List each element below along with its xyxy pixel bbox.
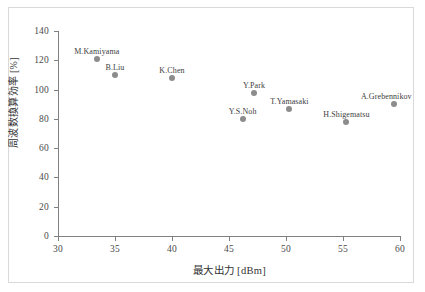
y-tick-mark bbox=[54, 31, 58, 32]
x-tick-mark bbox=[229, 237, 230, 241]
data-point-label: H.Shigematsu bbox=[323, 110, 369, 119]
y-tick-mark bbox=[54, 177, 58, 178]
x-tick-label: 30 bbox=[43, 244, 73, 254]
x-tick-mark bbox=[58, 237, 59, 241]
data-point-label: K.Chen bbox=[159, 66, 184, 75]
x-tick-label: 55 bbox=[328, 244, 358, 254]
x-tick-label: 45 bbox=[214, 244, 244, 254]
x-tick-mark bbox=[343, 237, 344, 241]
data-point-label: Y.Park bbox=[243, 81, 265, 90]
x-tick-label: 35 bbox=[100, 244, 130, 254]
y-axis-line bbox=[58, 31, 59, 237]
data-point bbox=[112, 72, 118, 78]
plot-area bbox=[58, 31, 400, 236]
y-tick-mark bbox=[54, 60, 58, 61]
data-point bbox=[251, 90, 257, 96]
y-tick-label: 100 bbox=[25, 85, 49, 95]
x-tick-mark bbox=[400, 237, 401, 241]
data-point bbox=[94, 56, 100, 62]
y-tick-mark bbox=[54, 207, 58, 208]
data-point-label: T.Yamasaki bbox=[270, 97, 308, 106]
x-tick-label: 50 bbox=[271, 244, 301, 254]
y-tick-label: 0 bbox=[25, 231, 49, 241]
y-tick-mark bbox=[54, 90, 58, 91]
data-point-label: B.Liu bbox=[106, 63, 125, 72]
data-point-label: M.Kamiyama bbox=[74, 47, 119, 56]
data-point bbox=[169, 75, 175, 81]
y-tick-label: 40 bbox=[25, 172, 49, 182]
y-tick-label: 60 bbox=[25, 143, 49, 153]
x-tick-mark bbox=[172, 237, 173, 241]
x-tick-mark bbox=[286, 237, 287, 241]
x-tick-mark bbox=[115, 237, 116, 241]
y-tick-label: 80 bbox=[25, 114, 49, 124]
y-tick-label: 120 bbox=[25, 55, 49, 65]
x-axis-title: 最大出力 [dBm] bbox=[58, 262, 401, 277]
x-tick-label: 60 bbox=[385, 244, 415, 254]
data-point bbox=[240, 116, 246, 122]
y-tick-mark bbox=[54, 148, 58, 149]
data-point-label: A.Grebennikov bbox=[361, 92, 412, 101]
y-axis-title: 周波数換算効率 [%] bbox=[5, 28, 20, 178]
y-tick-label: 20 bbox=[25, 202, 49, 212]
data-point-label: Y.S.Noh bbox=[229, 107, 257, 116]
y-tick-label: 140 bbox=[25, 26, 49, 36]
chart-figure: 020406080100120140 30354045505560 M.Kami… bbox=[0, 0, 425, 292]
x-tick-label: 40 bbox=[157, 244, 187, 254]
y-tick-mark bbox=[54, 119, 58, 120]
